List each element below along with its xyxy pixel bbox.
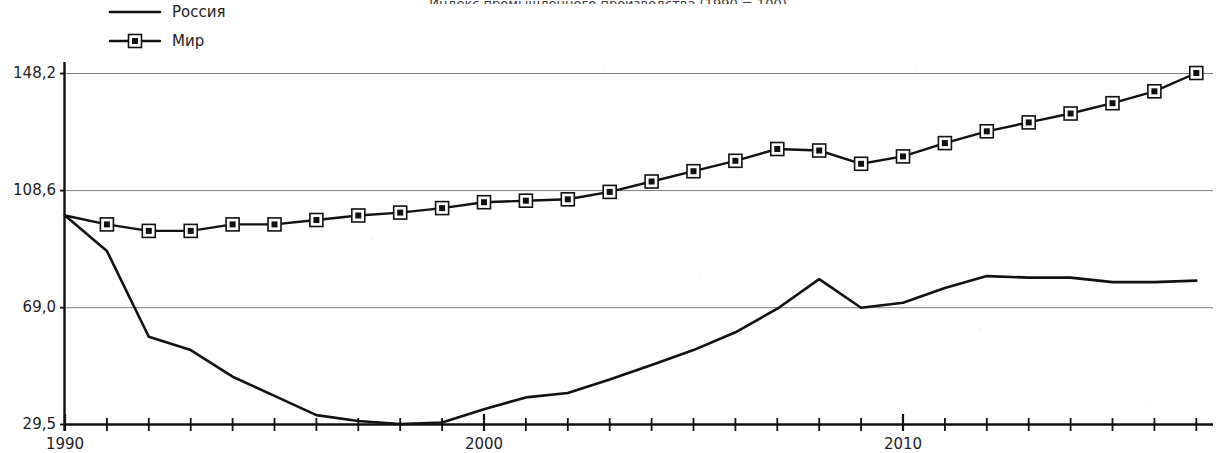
legend-label-world: Мир [172,32,204,50]
chart-container: Индекс промышленного производства (1990 … [0,0,1217,453]
data-point-marker-inner [355,213,361,219]
data-point-marker-inner [104,221,110,227]
chart-background [0,0,1217,453]
data-point-marker-inner [272,221,278,227]
data-point-marker-inner [397,210,403,216]
data-point-marker-inner [900,153,906,159]
x-tick-label: 1990 [46,435,84,453]
y-tick-label: 108,6 [13,181,56,199]
data-point-marker-inner [1110,100,1116,106]
legend-marker-square-inner [132,38,138,44]
data-point-marker-inner [691,168,697,174]
x-tick-label: 2010 [884,435,922,453]
data-point-marker-inner [439,205,445,211]
data-point-marker-inner [1068,111,1074,117]
data-point-marker-inner [858,161,864,167]
y-tick-label: 69,0 [23,298,56,316]
data-point-marker-inner [230,221,236,227]
data-point-marker-inner [146,228,152,234]
y-tick-label: 29,5 [23,415,56,433]
data-point-marker-inner [649,179,655,185]
data-point-marker-inner [1026,119,1032,125]
data-point-marker-inner [774,146,780,152]
y-tick-label: 148,2 [13,64,56,82]
line-chart: Индекс промышленного производства (1990 … [0,0,1217,453]
data-point-marker-inner [816,148,822,154]
data-point-marker-inner [565,196,571,202]
x-tick-label: 2000 [465,435,503,453]
data-point-marker-inner [523,198,529,204]
legend-label-russia: Россия [172,3,226,21]
data-point-marker-inner [1151,88,1157,94]
data-point-marker-inner [607,189,613,195]
data-point-marker-inner [732,158,738,164]
data-point-marker-inner [1193,70,1199,76]
data-point-marker-inner [942,140,948,146]
data-point-marker-inner [188,228,194,234]
data-point-marker-inner [313,217,319,223]
data-point-marker-inner [984,128,990,134]
data-point-marker-inner [481,199,487,205]
